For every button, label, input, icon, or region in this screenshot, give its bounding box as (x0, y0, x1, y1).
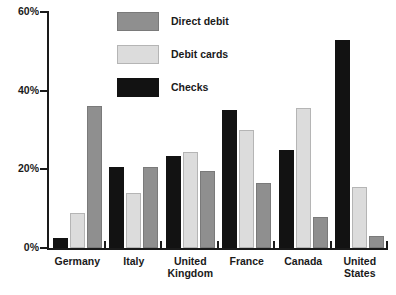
y-axis-tick-label-text: 0% (3, 242, 39, 253)
y-axis-tick (40, 11, 49, 13)
y-axis-tick-label-text: 20% (3, 163, 39, 174)
bar-direct-debit (87, 106, 102, 248)
x-axis-category-label: UnitedKingdom (162, 255, 219, 279)
x-axis-category-label: France (219, 255, 276, 267)
bar-direct-debit (313, 217, 328, 248)
bar-direct-debit (143, 167, 158, 248)
bar-group (222, 12, 271, 248)
category-label-line: Germany (49, 255, 106, 267)
bar-direct-debit (369, 236, 384, 248)
bar-debit-cards (70, 213, 85, 248)
x-axis-category-label: Germany (49, 255, 106, 267)
legend-swatch-direct-debit (117, 12, 159, 31)
category-label-line: France (219, 255, 276, 267)
legend-swatch-debit-cards (117, 45, 159, 64)
bar-debit-cards (126, 193, 141, 248)
bar-checks (109, 167, 124, 248)
category-label-line: Italy (106, 255, 163, 267)
bar-direct-debit (200, 171, 215, 248)
bar-group (279, 12, 328, 248)
bar-group (53, 12, 102, 248)
bar-debit-cards (183, 152, 198, 248)
y-axis-tick (40, 90, 49, 92)
bar-debit-cards (296, 108, 311, 248)
y-axis-tick-label-text: 60% (3, 6, 39, 17)
bar-debit-cards (352, 187, 367, 248)
y-axis-tick (40, 168, 49, 170)
bar-checks (335, 40, 350, 248)
bar-debit-cards (239, 130, 254, 248)
category-label-line: Kingdom (162, 267, 219, 279)
legend-swatch-checks (117, 78, 159, 97)
bar-checks (222, 110, 237, 248)
bar-group (335, 12, 384, 248)
y-axis-tick-label: 40% (0, 85, 39, 96)
bar-chart: 0%20%40%60% GermanyItalyUnitedKingdomFra… (0, 0, 396, 295)
category-label-line: United (332, 255, 389, 267)
category-label-line: Canada (275, 255, 332, 267)
x-axis-category-label: Italy (106, 255, 163, 267)
legend-label: Checks (171, 82, 208, 93)
category-label-line: States (332, 267, 389, 279)
legend-label: Debit cards (171, 49, 228, 60)
bar-checks (53, 238, 68, 248)
y-axis-tick-label: 60% (0, 6, 39, 17)
y-axis-tick-label: 20% (0, 163, 39, 174)
y-axis-tick-label-text: 40% (3, 85, 39, 96)
category-label-line: United (162, 255, 219, 267)
bar-checks (166, 156, 181, 248)
x-axis-category-label: UnitedStates (332, 255, 389, 279)
bar-checks (279, 150, 294, 248)
y-axis-tick-label: 0% (0, 242, 39, 253)
bar-direct-debit (256, 183, 271, 248)
legend-label: Direct debit (171, 16, 229, 27)
x-axis-category-label: Canada (275, 255, 332, 267)
